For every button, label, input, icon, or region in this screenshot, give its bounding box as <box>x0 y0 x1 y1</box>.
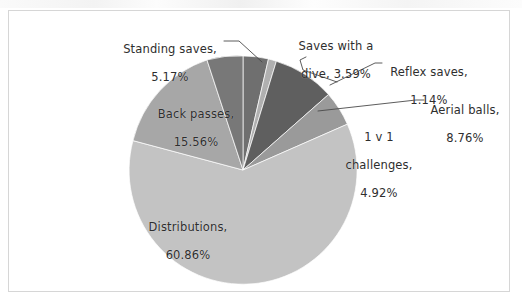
label-saves-with-a-dive-line1: Saves with a <box>290 39 382 53</box>
label-saves-with-a-dive: Saves with a dive, 3.59% <box>290 25 382 95</box>
label-distributions-line2: 60.86% <box>132 248 244 262</box>
label-aerial-balls: Aerial balls, 8.76% <box>421 89 509 159</box>
label-reflex-saves-line1: Reflex saves, <box>383 65 475 79</box>
label-standing-saves: Standing saves, 5.17% <box>108 28 232 98</box>
label-distributions: Distributions, 60.86% <box>132 206 244 276</box>
label-aerial-balls-line1: Aerial balls, <box>421 103 509 117</box>
label-standing-saves-line1: Standing saves, <box>108 42 232 56</box>
label-1v1-challenges-line1: 1 v 1 <box>338 130 420 144</box>
label-back-passes-line2: 15.56% <box>144 135 248 149</box>
label-distributions-line1: Distributions, <box>132 220 244 234</box>
label-aerial-balls-line2: 8.76% <box>421 131 509 145</box>
pie-chart-screenshot: Standing saves, 5.17% Saves with a dive,… <box>0 0 522 305</box>
label-back-passes-line1: Back passes, <box>144 107 248 121</box>
label-standing-saves-line2: 5.17% <box>108 70 232 84</box>
label-1v1-challenges-line2: challenges, <box>338 158 420 172</box>
label-saves-with-a-dive-line2: dive, 3.59% <box>290 67 382 81</box>
label-1v1-challenges-line3: 4.92% <box>338 186 420 200</box>
label-1v1-challenges: 1 v 1 challenges, 4.92% <box>338 116 420 214</box>
label-back-passes: Back passes, 15.56% <box>144 93 248 163</box>
